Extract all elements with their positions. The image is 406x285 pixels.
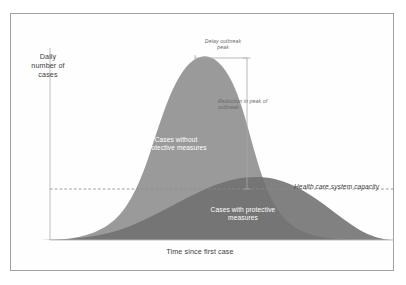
cases-without-protective-measures-label: Cases without protective measures [133,136,219,152]
figure-container: Daily number of cases Time since first c… [0,0,406,285]
reduction-in-peak-annotation: Reduction in peak of outbreak [218,98,284,111]
health-care-capacity-label: Health care system capacity [294,183,402,191]
cases-with-protective-measures-label: Cases with protective measures [200,206,286,222]
y-axis-label: Daily number of cases [22,53,74,79]
x-axis-label: Time since first case [110,248,290,257]
delay-outbreak-peak-annotation: Delay outbreak peak [192,38,254,51]
